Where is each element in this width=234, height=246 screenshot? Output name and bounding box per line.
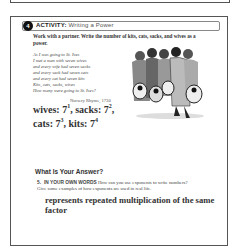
wives-answer: wives: 7 (33, 104, 67, 115)
answer-line-wives-sacks: wives: 71, sacks: 72, (33, 103, 114, 115)
cats-answer: cats: 7 (33, 118, 61, 129)
handwritten-response: represents repeated multiplication of th… (45, 195, 220, 215)
section-title: What Is Your Answer? (35, 168, 103, 175)
sacks-answer: , sacks: 7 (70, 104, 109, 115)
activity-heading: ACTIVITY: Writing a Power (36, 22, 114, 28)
travelers-illustration (128, 46, 210, 122)
activity-number-badge: 4 (23, 21, 33, 31)
activity-label: ACTIVITY: (36, 22, 67, 28)
poem-line: How many were going to St. Ives? (33, 88, 128, 94)
question-number: 5. (37, 180, 41, 185)
activity-instructions: Work with a partner. Write the number of… (33, 33, 198, 47)
kits-answer: , kits: 7 (64, 118, 95, 129)
answer-line-cats-kits: cats: 73, kits: 74 (33, 117, 98, 129)
question-5: 5.IN YOUR OWN WORDS How can you use expo… (37, 180, 197, 192)
activity-title: Writing a Power (69, 22, 114, 28)
poem: As I was going to St. Ives I met a man w… (33, 52, 128, 94)
kits-exponent: 4 (95, 117, 98, 123)
question-lead: IN YOUR OWN WORDS (44, 180, 97, 185)
comma: , (112, 104, 115, 115)
previous-box-edge (10, 0, 230, 3)
